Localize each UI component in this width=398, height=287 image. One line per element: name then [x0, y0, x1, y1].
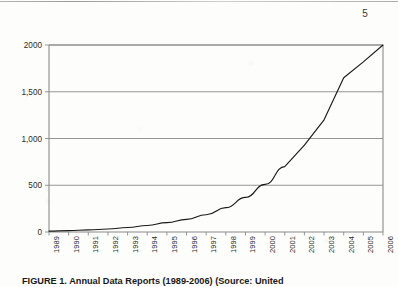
x-axis-label: 2005 — [366, 236, 375, 253]
y-axis-label: 1,000 — [22, 135, 43, 144]
x-axis-labels: 1989199019911992199319941995199619971998… — [0, 236, 398, 278]
chart-canvas: 05001,0001,5002000 — [0, 36, 398, 236]
x-axis-label: 1996 — [190, 236, 199, 253]
x-axis-label: 2004 — [347, 236, 356, 253]
x-axis-label: 1997 — [209, 236, 218, 253]
x-axis-label: 2006 — [386, 236, 395, 253]
y-tick-marks-group — [45, 45, 49, 232]
x-axis-label: 2000 — [268, 236, 277, 253]
y-axis-label: 2000 — [24, 41, 43, 50]
x-axis-label: 1990 — [72, 236, 81, 253]
data-series-line — [49, 45, 383, 231]
x-axis-label: 1991 — [91, 236, 100, 253]
x-axis-label: 2001 — [288, 236, 297, 253]
x-axis-label: 2002 — [307, 236, 316, 253]
y-axis-label: 1,500 — [22, 88, 43, 97]
x-axis-label: 1994 — [150, 236, 159, 253]
figure-caption: FIGURE 1. Annual Data Reports (1989-2006… — [22, 276, 394, 287]
page-number: 5 — [362, 8, 368, 19]
x-axis-label: 2003 — [327, 236, 336, 253]
x-axis-label: 1995 — [170, 236, 179, 253]
x-axis-label: 1989 — [52, 236, 61, 253]
y-axis-label: 0 — [37, 228, 42, 236]
scanned-page: 5 05001,0001,5002000 1989199019911992199… — [0, 0, 398, 287]
gridlines-group — [49, 45, 383, 185]
line-chart: 05001,0001,5002000 — [0, 36, 398, 236]
y-axis-label: 500 — [28, 181, 42, 190]
x-axis-label: 1992 — [111, 236, 120, 253]
scan-edge-line — [0, 1, 398, 2]
x-axis-label: 1999 — [248, 236, 257, 253]
x-axis-label: 1993 — [131, 236, 140, 253]
y-axis-labels-group: 05001,0001,5002000 — [22, 41, 43, 236]
x-axis-label: 1998 — [229, 236, 238, 253]
